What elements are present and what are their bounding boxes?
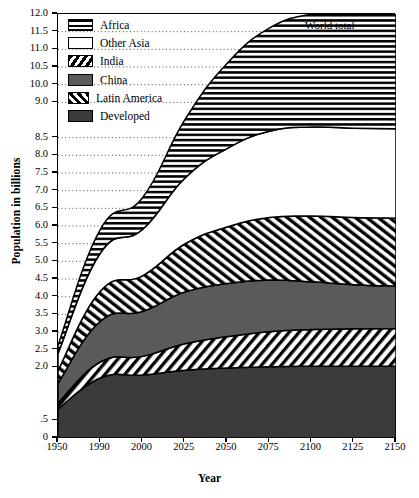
legend-item-other-asia[interactable]: Other Asia bbox=[68, 34, 186, 52]
x-tick-label: 1990 bbox=[79, 441, 119, 452]
legend-item-china[interactable]: China bbox=[68, 71, 186, 89]
y-tick-label: 11.5 bbox=[8, 26, 48, 36]
x-tick-label: 2075 bbox=[248, 441, 288, 452]
y-tick-label: 9.0 bbox=[8, 96, 48, 106]
y-tick-label: 4.0 bbox=[8, 291, 48, 301]
y-tick-label: 5.0 bbox=[8, 255, 48, 265]
x-tick-label: 2100 bbox=[291, 441, 331, 452]
area-band-developed bbox=[58, 366, 396, 438]
swatch-backward-hatch-icon bbox=[68, 55, 93, 67]
swatch-white-icon bbox=[68, 37, 93, 49]
y-tick-label: 7.0 bbox=[8, 185, 48, 195]
swatch-gray-icon bbox=[68, 74, 93, 86]
y-tick-label: 11.0 bbox=[8, 43, 48, 53]
y-tick-label: 6.5 bbox=[8, 202, 48, 212]
legend-item-africa[interactable]: Africa bbox=[68, 16, 186, 34]
y-tick-label: 6.0 bbox=[8, 220, 48, 230]
x-tick-label: 2025 bbox=[164, 441, 204, 452]
x-tick-label: 2000 bbox=[122, 441, 162, 452]
legend-item-label: China bbox=[100, 74, 127, 86]
y-tick-label: 3.0 bbox=[8, 326, 48, 336]
world-total-annotation: World total bbox=[305, 19, 355, 31]
legend: AfricaOther AsiaIndiaChinaLatin AmericaD… bbox=[68, 16, 186, 125]
x-tick-label: 2125 bbox=[333, 441, 373, 452]
y-tick-label: 10.5 bbox=[8, 61, 48, 71]
y-tick-label: 3.5 bbox=[8, 308, 48, 318]
legend-item-label: India bbox=[100, 55, 124, 67]
legend-item-developed[interactable]: Developed bbox=[68, 107, 186, 125]
legend-item-label: Developed bbox=[100, 110, 150, 122]
swatch-forward-hatch-icon bbox=[68, 92, 89, 104]
swatch-dark-icon bbox=[68, 110, 93, 122]
y-tick-label: 8.5 bbox=[8, 132, 48, 142]
y-tick-label: .5 bbox=[8, 414, 48, 424]
y-tick-label: 7.5 bbox=[8, 167, 48, 177]
y-tick-label: 10.0 bbox=[8, 79, 48, 89]
y-tick-label: 12.0 bbox=[8, 8, 48, 18]
legend-item-label: Other Asia bbox=[100, 37, 150, 49]
legend-item-latin-america[interactable]: Latin America bbox=[68, 89, 186, 107]
legend-item-india[interactable]: India bbox=[68, 52, 186, 70]
swatch-horizontal-stripe-icon bbox=[68, 19, 93, 31]
legend-item-label: Africa bbox=[100, 19, 129, 31]
y-tick-label: 2.5 bbox=[8, 344, 48, 354]
x-tick-label: 1950 bbox=[37, 441, 77, 452]
x-tick-label: 2050 bbox=[206, 441, 246, 452]
x-tick-label: 2150 bbox=[375, 441, 415, 452]
y-tick-label: 4.5 bbox=[8, 273, 48, 283]
y-tick-label: 5.5 bbox=[8, 238, 48, 248]
y-tick-label: 2.0 bbox=[8, 361, 48, 371]
y-tick-label: 8.0 bbox=[8, 149, 48, 159]
population-area-chart: Population in billions Year 12.011.511.0… bbox=[0, 0, 419, 498]
legend-item-label: Latin America bbox=[96, 92, 162, 104]
